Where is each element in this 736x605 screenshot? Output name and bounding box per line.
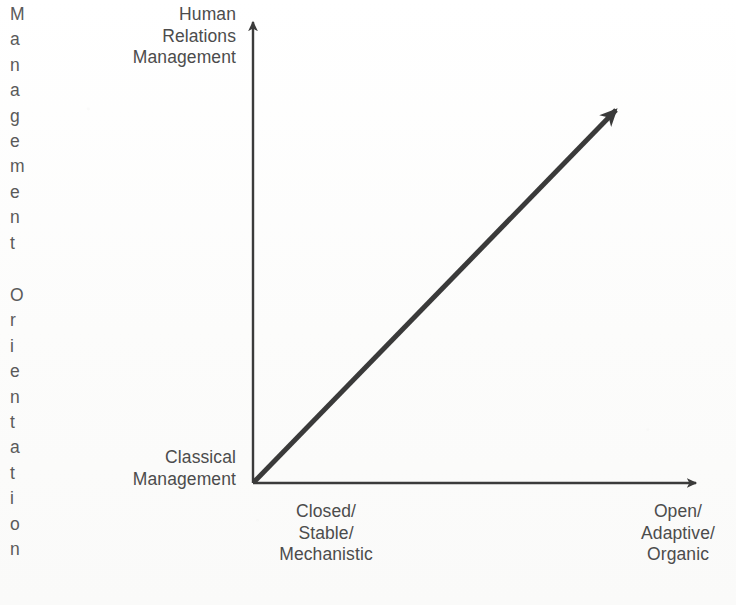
y-axis-subtitle-letter: t [10, 461, 40, 486]
x-axis-high-label: Open/ Adaptive/ Organic [618, 501, 736, 566]
y-axis-subtitle-letter: a [10, 435, 40, 460]
y-axis-title-letter: n [10, 53, 40, 78]
y-axis-subtitle-letter: o [10, 512, 40, 537]
y-axis-title-letter: a [10, 27, 40, 52]
y-axis-subtitle-letter: e [10, 359, 40, 384]
y-axis-title-letter: a [10, 78, 40, 103]
y-axis-title-orientation: O r i e n t a t i o n [10, 283, 40, 562]
y-axis-title-letter: M [10, 2, 40, 27]
y-axis-title-letter: e [10, 129, 40, 154]
y-axis-title-letter: e [10, 180, 40, 205]
y-axis-subtitle-letter: i [10, 334, 40, 359]
y-axis-title-letter: n [10, 205, 40, 230]
y-axis-subtitle-letter: O [10, 283, 40, 308]
y-axis-subtitle-letter: t [10, 410, 40, 435]
y-axis-low-label: Classical Management [133, 447, 236, 490]
diagram-canvas: M a n a g e m e n t O r i e n t a t i o … [0, 0, 736, 605]
y-axis-title-letter: t [10, 231, 40, 256]
y-axis-subtitle-letter: n [10, 537, 40, 562]
y-axis-subtitle-letter: n [10, 385, 40, 410]
trend-arrow [254, 110, 616, 482]
y-axis-title-management: M a n a g e m e n t [10, 2, 40, 256]
y-axis-title-letter: g [10, 104, 40, 129]
y-axis-high-label: Human Relations Management [133, 4, 236, 69]
x-axis-low-label: Closed/ Stable/ Mechanistic [246, 501, 406, 566]
y-axis-title-letter: m [10, 154, 40, 179]
y-axis-subtitle-letter: i [10, 486, 40, 511]
y-axis-subtitle-letter: r [10, 308, 40, 333]
